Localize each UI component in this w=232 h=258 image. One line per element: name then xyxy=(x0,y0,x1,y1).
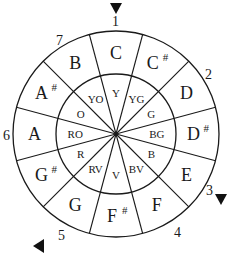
sharp-symbol: # xyxy=(122,204,128,216)
note-label-a-sharp: A xyxy=(35,83,48,103)
note-label-a: A xyxy=(28,124,41,144)
note-labels: CC#DD#EFF#GG#AA#B xyxy=(28,43,210,226)
color-label-r: R xyxy=(77,148,85,160)
color-label-o: O xyxy=(77,108,85,120)
note-label-f-sharp: F xyxy=(107,206,117,226)
sector-divider xyxy=(116,107,215,134)
color-label-yo: YO xyxy=(88,93,104,105)
note-label-d: D xyxy=(180,83,193,103)
position-number-6: 6 xyxy=(3,128,10,143)
note-label-g-sharp: G xyxy=(35,165,48,185)
marker-3-triangle-icon xyxy=(215,194,227,205)
note-label-b: B xyxy=(69,53,81,73)
position-number-4: 4 xyxy=(174,225,181,240)
sharp-symbol: # xyxy=(51,81,57,93)
color-label-rv: RV xyxy=(88,163,102,175)
position-number-2: 2 xyxy=(205,67,212,82)
note-label-c: C xyxy=(110,43,122,63)
color-label-ro: RO xyxy=(68,128,83,140)
position-number-3: 3 xyxy=(206,183,213,198)
position-number-7: 7 xyxy=(56,33,63,48)
sector-dividers xyxy=(17,35,216,234)
color-label-y: Y xyxy=(112,87,120,99)
note-label-f: F xyxy=(152,195,162,215)
position-number-1: 1 xyxy=(112,14,119,29)
marker-5-triangle-icon xyxy=(33,239,44,253)
note-label-g: G xyxy=(69,195,82,215)
color-label-b: B xyxy=(148,148,155,160)
sharp-symbol: # xyxy=(51,163,57,175)
color-music-wheel: CC#DD#EFF#GG#AA#B YYGGBGBBVVRVRROOYO 123… xyxy=(0,0,232,258)
color-label-v: V xyxy=(112,169,120,181)
sharp-symbol: # xyxy=(204,122,210,134)
sector-divider xyxy=(116,134,143,233)
color-label-g: G xyxy=(147,108,155,120)
color-label-bv: BV xyxy=(129,163,144,175)
note-label-d-sharp: D xyxy=(187,124,200,144)
position-number-5: 5 xyxy=(58,228,65,243)
note-label-e: E xyxy=(181,165,192,185)
note-label-c-sharp: C xyxy=(147,53,159,73)
color-label-bg: BG xyxy=(149,128,164,140)
sector-divider xyxy=(116,134,215,161)
sharp-symbol: # xyxy=(163,51,169,63)
marker-1-triangle-icon xyxy=(110,3,122,14)
color-label-yg: YG xyxy=(128,93,144,105)
